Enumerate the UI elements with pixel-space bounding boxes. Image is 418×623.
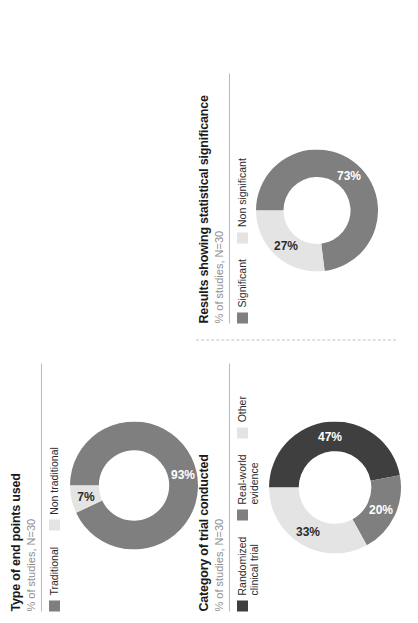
panel-divider <box>196 339 396 340</box>
legend-item[interactable]: Other <box>236 396 248 438</box>
panel-title: Results showing statistical significance <box>198 73 212 323</box>
legend-swatch-randomized-clinical-trial <box>237 600 248 611</box>
donut-segment[interactable] <box>269 487 367 553</box>
donut-svg <box>256 149 378 271</box>
panel-subtitle: % of studies, N=30 <box>213 363 226 611</box>
donut-chart-category: 47%20%33% <box>269 421 401 553</box>
legend-item[interactable]: Non traditional <box>48 447 60 531</box>
donut-chart-endpoints: 93%7% <box>70 421 198 549</box>
legend-label: Real-world evidence <box>236 454 260 504</box>
infographic-canvas: Type of end points used % of studies, N=… <box>0 0 418 623</box>
panel-subtitle: % of studies, N=30 <box>213 73 226 323</box>
legend-item[interactable]: Traditional <box>48 546 60 611</box>
legend-item[interactable]: Randomized clinical trial <box>236 536 260 611</box>
legend-label: Traditional <box>48 546 60 595</box>
panel-title: Category of trial conducted <box>198 363 212 611</box>
legend-label: Other <box>236 396 248 422</box>
legend-swatch-traditional <box>49 600 60 611</box>
title-rule <box>229 73 230 323</box>
legend-label: Significant <box>236 259 248 307</box>
legend-label: Randomized clinical trial <box>236 536 260 595</box>
legend-swatch-non-traditional <box>49 519 60 530</box>
legend: Significant Non significant <box>236 73 248 323</box>
donut-svg <box>269 421 401 553</box>
legend-swatch-real-world-evidence <box>237 509 248 520</box>
donut-segment[interactable] <box>70 421 198 549</box>
legend-swatch-non-significant <box>237 232 248 243</box>
panel-title: Type of end points used <box>10 363 24 611</box>
panel-type-of-end-points: Type of end points used % of studies, N=… <box>10 363 198 611</box>
legend-item[interactable]: Non significant <box>236 158 248 243</box>
donut-segment[interactable] <box>269 421 400 487</box>
legend: Randomized clinical trial Real-world evi… <box>236 363 260 611</box>
legend-item[interactable]: Real-world evidence <box>236 454 260 520</box>
legend-swatch-other <box>237 427 248 438</box>
legend-swatch-significant <box>237 312 248 323</box>
legend-item[interactable]: Significant <box>236 259 248 323</box>
legend: Traditional Non traditional <box>48 363 60 611</box>
donut-chart-results: 73%27% <box>256 149 378 271</box>
title-rule <box>229 363 230 611</box>
donut-segment[interactable] <box>256 210 325 271</box>
legend-label: Non traditional <box>48 447 60 515</box>
title-rule <box>41 363 42 611</box>
panel-subtitle: % of studies, N=30 <box>25 363 38 611</box>
donut-svg <box>70 421 198 549</box>
panel-results-significance: Results showing statistical significance… <box>198 73 378 323</box>
panel-category-of-trial: Category of trial conducted % of studies… <box>198 363 401 611</box>
legend-label: Non significant <box>236 158 248 227</box>
